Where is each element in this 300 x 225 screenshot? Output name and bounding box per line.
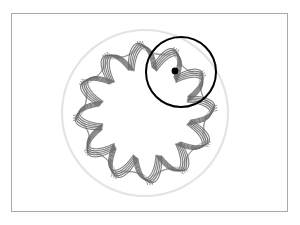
rolling-circle xyxy=(146,37,216,107)
hypotrochoid-trace xyxy=(73,41,217,185)
pen-point-dot xyxy=(172,68,179,75)
spirograph-drawing xyxy=(0,0,300,225)
hypotrochoid-chord-pass xyxy=(73,41,216,184)
hypotrochoid-pass xyxy=(78,46,211,179)
fixed-outer-circle xyxy=(62,30,228,196)
hypotrochoid-chord-pass xyxy=(73,41,217,185)
hypotrochoid-pass xyxy=(75,43,214,182)
figure-canvas xyxy=(0,0,300,225)
hypotrochoid-pass xyxy=(79,47,210,178)
hypotrochoid-pass xyxy=(77,45,212,180)
hypotrochoid-chord-pass xyxy=(73,41,217,185)
hypotrochoid-pass xyxy=(76,44,213,181)
spirograph-svg xyxy=(0,0,300,225)
